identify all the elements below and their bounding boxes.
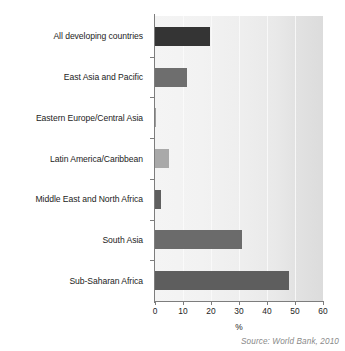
category-label: Eastern Europe/Central Asia [0,113,143,123]
bar [155,149,169,168]
x-axis-title: % [155,322,323,332]
y-axis-tick [150,260,155,261]
bar [155,27,210,46]
x-axis-tick-label: 20 [198,306,224,316]
x-axis-tick-label: 30 [226,306,252,316]
x-axis-tick [155,301,156,305]
x-axis-tick [267,301,268,305]
x-axis-tick-label: 40 [254,306,280,316]
source-note: Source: World Bank, 2010 [241,337,339,346]
bars-layer [155,16,323,301]
x-axis-tick [295,301,296,305]
plot-area [155,16,323,301]
y-axis-tick [150,179,155,180]
bar [155,68,187,87]
x-axis-tick-label: 10 [170,306,196,316]
bar [155,230,242,249]
x-axis-tick-label: 0 [142,306,168,316]
category-label: Latin America/Caribbean [0,154,143,164]
x-axis-tick [211,301,212,305]
y-axis-tick [150,97,155,98]
x-axis-tick-label: 60 [310,306,336,316]
x-axis-tick-label: 50 [282,306,308,316]
bar-chart-figure: All developing countriesEast Asia and Pa… [0,0,345,351]
x-axis-tick [323,301,324,305]
y-axis-tick [150,138,155,139]
category-label: Middle East and North Africa [0,194,143,204]
category-label: East Asia and Pacific [0,72,143,82]
bar [155,190,161,209]
x-axis-tick [239,301,240,305]
category-label: All developing countries [0,31,143,41]
bar [155,271,289,290]
y-axis-tick [150,57,155,58]
category-label: South Asia [0,235,143,245]
category-label: Sub-Saharan Africa [0,276,143,286]
category-axis-labels: All developing countriesEast Asia and Pa… [0,16,150,301]
x-axis-tick [183,301,184,305]
y-axis-tick [150,220,155,221]
